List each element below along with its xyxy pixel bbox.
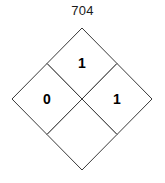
figure-root: 704 1 0 1 (0, 0, 165, 183)
diamond-cell-left-label: 0 (43, 91, 51, 107)
diamond-diagram: 1 0 1 (0, 0, 165, 183)
diamond-cell-top-label: 1 (78, 55, 86, 71)
diamond-cell-right-label: 1 (113, 91, 121, 107)
